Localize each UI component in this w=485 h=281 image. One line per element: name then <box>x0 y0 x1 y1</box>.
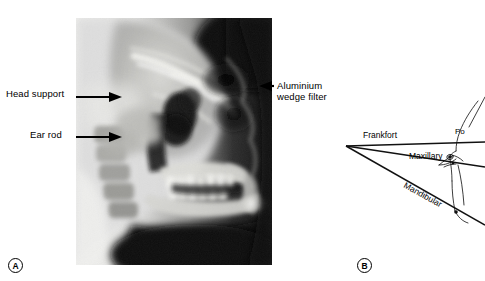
landmark-gonion-point <box>454 210 458 214</box>
annotation-ear-rod: Ear rod <box>30 129 62 140</box>
cephalometric-tracing-diagram <box>340 95 485 230</box>
label-porion-landmark: Po <box>455 127 465 136</box>
annotation-aluminium-wedge-filter: Aluminium wedge filter <box>277 80 347 102</box>
figure-root: Head support Ear rod Aluminium wedge fil… <box>0 0 485 281</box>
radiograph-image <box>76 18 272 265</box>
annotation-aluminium-wedge-filter-line2: wedge filter <box>277 91 327 102</box>
tracing-drawing <box>340 95 485 230</box>
label-frankfort-plane: Frankfort <box>363 130 397 140</box>
annotation-aluminium-wedge-filter-line1: Aluminium <box>277 80 322 91</box>
panel-letter-a: A <box>8 258 23 273</box>
label-maxillary-plane: Maxillary <box>409 151 443 161</box>
frankfort-plane-line <box>346 142 485 146</box>
landmark-porion-point <box>448 155 452 159</box>
lateral-cephalometric-radiograph <box>76 18 272 265</box>
annotation-head-support: Head support <box>6 88 64 99</box>
panel-letter-b: B <box>357 258 372 273</box>
